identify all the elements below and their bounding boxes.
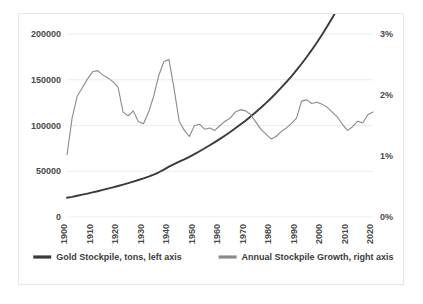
x-axis-tick-label: 1920 — [110, 224, 120, 244]
right-axis-tick-label: 3% — [380, 29, 393, 39]
left-axis-ticks: 050000100000150000200000 — [31, 29, 61, 222]
x-axis-tick-label: 1960 — [212, 224, 222, 244]
chart-legend: Gold Stockpile, tons, left axisAnnual St… — [33, 252, 393, 262]
x-axis-tick-label: 1940 — [161, 224, 171, 244]
x-axis-tick-label: 2000 — [314, 224, 324, 244]
right-axis-tick-label: 2% — [380, 90, 393, 100]
left-axis-tick-label: 50000 — [36, 166, 61, 176]
x-axis-tick-label: 1980 — [263, 224, 273, 244]
right-axis-ticks: 0%1%2%3% — [380, 29, 393, 222]
right-axis-tick-label: 1% — [380, 151, 393, 161]
right-axis-tick-label: 0% — [380, 212, 393, 222]
chart-card: 050000100000150000200000 0%1%2%3% 190019… — [18, 13, 404, 285]
left-axis-tick-label: 200000 — [31, 29, 61, 39]
x-axis-tick-label: 1950 — [187, 224, 197, 244]
left-axis-tick-label: 150000 — [31, 75, 61, 85]
line-chart: 050000100000150000200000 0%1%2%3% 190019… — [19, 14, 405, 286]
x-axis-tick-label: 2010 — [340, 224, 350, 244]
left-axis-tick-label: 100000 — [31, 121, 61, 131]
x-axis-tick-label: 1910 — [85, 224, 95, 244]
series-line-1 — [67, 14, 373, 198]
left-axis-tick-label: 0 — [56, 212, 61, 222]
x-axis-tick-label: 1990 — [289, 224, 299, 244]
legend-label-1: Gold Stockpile, tons, left axis — [56, 252, 182, 262]
series-layer — [67, 14, 373, 198]
x-axis-tick-label: 1970 — [238, 224, 248, 244]
chart-plot-area: 050000100000150000200000 0%1%2%3% 190019… — [19, 14, 405, 286]
series-line-2 — [67, 60, 373, 155]
x-axis-tick-label: 1930 — [136, 224, 146, 244]
x-axis-tick-label: 1900 — [59, 224, 69, 244]
x-axis-tick-label: 2020 — [365, 224, 375, 244]
x-axis-ticks: 1900191019201930194019501960197019801990… — [59, 224, 375, 244]
legend-label-2: Annual Stockpile Growth, right axis — [242, 252, 394, 262]
